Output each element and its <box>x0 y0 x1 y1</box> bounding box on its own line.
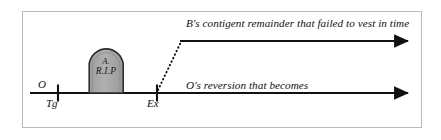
annotation-upper-branch: B's contigent remainder that failed to v… <box>186 18 409 29</box>
axis-label-ex: Ex <box>147 98 159 109</box>
axis-label-o: O <box>38 79 46 90</box>
annotation-lower-branch: O's reversion that becomes <box>186 80 308 91</box>
dotted-riser-line <box>158 42 181 90</box>
diagram-canvas: A. R.I.P O Tg Ex B's contigent remainder… <box>0 0 441 140</box>
axis-label-tg: Tg <box>46 98 58 109</box>
tombstone-shape <box>89 49 123 93</box>
